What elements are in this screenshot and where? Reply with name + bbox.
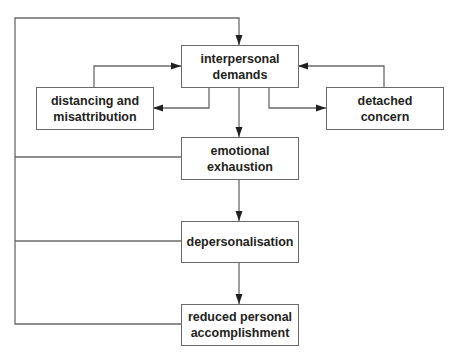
node-label: accomplishment (188, 325, 292, 341)
node-label: interpersonal (200, 51, 279, 67)
node-detached-concern: detachedconcern (326, 87, 444, 130)
node-label: depersonalisation (187, 234, 294, 250)
node-interpersonal-demands: interpersonaldemands (181, 45, 299, 88)
detached-to-demands-arrow (298, 66, 384, 87)
demands-to-distancing-arrow (153, 87, 209, 108)
node-label: exhaustion (207, 159, 273, 175)
node-label: reduced personal (188, 309, 292, 325)
node-label: distancing and (51, 93, 139, 109)
node-emotional-exhaustion: emotionalexhaustion (181, 137, 299, 180)
node-label: misattribution (51, 109, 139, 125)
node-label: demands (200, 67, 279, 83)
node-label: detached (358, 93, 413, 109)
distancing-to-demands-arrow (94, 66, 181, 87)
demands-to-detached-arrow (269, 87, 326, 108)
node-depersonalisation: depersonalisation (181, 221, 299, 263)
node-distancing-and-misattribution: distancing andmisattribution (36, 87, 154, 130)
node-label: emotional (207, 143, 273, 159)
node-label: concern (358, 109, 413, 125)
node-reduced-personal-accomplishment: reduced personalaccomplishment (181, 304, 299, 346)
